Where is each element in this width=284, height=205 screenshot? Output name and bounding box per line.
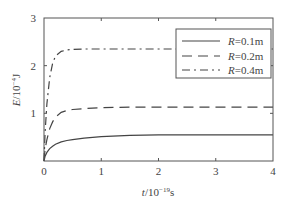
- y-axis-label: E/10−4J: [10, 73, 22, 107]
- x-axis-label: t/10−19s: [142, 186, 174, 198]
- svg-text:R=0.1m: R=0.1m: [227, 35, 264, 47]
- x-tick-label: 0: [41, 165, 47, 177]
- y-tick-label: 1: [31, 107, 37, 119]
- y-tick-label: 3: [31, 12, 37, 24]
- series-line-solid: [44, 135, 273, 161]
- svg-text:R=0.4m: R=0.4m: [227, 64, 264, 76]
- legend: R=0.1m R=0.2m R=0.4m: [176, 29, 271, 78]
- svg-text:R=0.2m: R=0.2m: [227, 50, 264, 62]
- line-chart: 01234123 t/10−19s E/10−4J R=0.1m R=0.2m …: [0, 0, 284, 205]
- x-tick-label: 2: [156, 165, 162, 177]
- series-line-dashed: [44, 107, 273, 161]
- y-tick-label: 2: [31, 60, 37, 72]
- x-tick-label: 1: [99, 165, 105, 177]
- x-tick-label: 3: [213, 165, 219, 177]
- x-tick-label: 4: [270, 165, 276, 177]
